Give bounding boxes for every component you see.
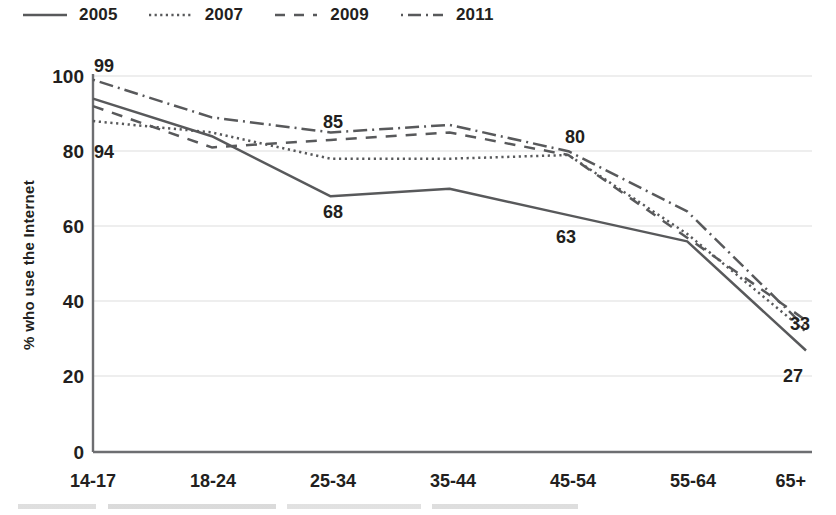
x-tick-14-17: 14-17 [70, 471, 116, 491]
chart-container: 2005 2007 2009 2011 % who use the Intern [0, 0, 836, 515]
x-tick-25-34: 25-34 [310, 471, 356, 491]
x-tick-45-54: 45-54 [550, 471, 596, 491]
data-label-2005-45-54: 63 [556, 227, 576, 247]
gridlines [93, 76, 812, 376]
axis-lines [93, 74, 812, 452]
series-line-2009 [93, 106, 806, 320]
y-tick-0: 0 [73, 442, 84, 463]
data-series-group [93, 80, 806, 351]
y-tick-40: 40 [63, 291, 84, 312]
x-tick-labels: 14-17 18-24 25-34 35-44 45-54 55-64 65+ [70, 471, 806, 491]
x-tick-65plus: 65+ [775, 471, 806, 491]
data-label-2011-65plus: 33 [790, 314, 810, 334]
data-label-2011-25-34: 85 [323, 112, 343, 132]
line-chart-svg: % who use the Internet 0 20 40 60 [0, 0, 836, 515]
footer-source-strip [18, 504, 578, 509]
data-point-labels: 99 94 85 68 80 63 33 27 [94, 56, 810, 386]
x-tick-55-64: 55-64 [670, 471, 716, 491]
y-axis-label-text: % who use the Internet [20, 180, 37, 350]
y-tick-60: 60 [63, 216, 84, 237]
data-label-2005-65plus: 27 [783, 366, 803, 386]
data-label-2005-14-17: 94 [94, 142, 114, 162]
series-line-2011 [93, 80, 806, 328]
y-tick-20: 20 [63, 366, 84, 387]
y-tick-100: 100 [52, 66, 84, 87]
x-tick-35-44: 35-44 [430, 471, 476, 491]
data-label-2005-25-34: 68 [323, 202, 343, 222]
y-tick-labels: 0 20 40 60 80 100 [52, 66, 84, 463]
y-tick-80: 80 [63, 141, 84, 162]
y-axis-label: % who use the Internet [20, 180, 37, 350]
plot-area: % who use the Internet 0 20 40 60 [0, 0, 836, 515]
data-label-2011-45-54: 80 [565, 127, 585, 147]
x-tick-18-24: 18-24 [190, 471, 236, 491]
data-label-2011-14-17: 99 [94, 56, 114, 76]
